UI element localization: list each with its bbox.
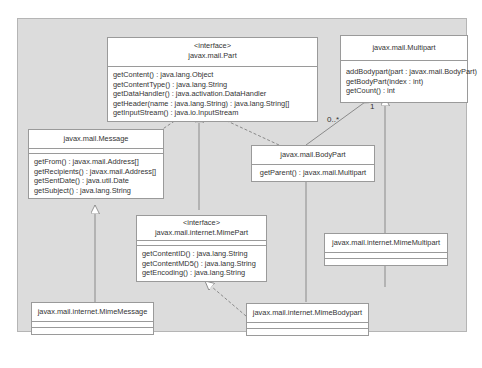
class-header: <interface> javax.mail.Part: [108, 38, 317, 67]
operation: getContentType() : java.lang.String: [113, 80, 312, 90]
operation: getSentDate() : java.util.Date: [34, 176, 158, 186]
class-name: javax.mail.internet.MimeBodypart: [253, 308, 362, 317]
operation: getBodyPart(index : int): [346, 77, 462, 87]
mimebodypart-realizes-mimepart: [205, 281, 246, 316]
operation: getRecipients() : javax.mail.Address[]: [34, 167, 158, 177]
class-mimebodypart[interactable]: javax.mail.internet.MimeBodypart: [246, 303, 369, 336]
stereotype-label: <interface>: [139, 218, 264, 228]
class-header: javax.mail.internet.MimeMultipart: [325, 234, 447, 253]
operation: getSubject() : java.lang.String: [34, 186, 158, 196]
class-header: javax.mail.Message: [29, 130, 163, 149]
class-name: javax.mail.internet.MimeMultipart: [332, 238, 440, 247]
class-header: javax.mail.internet.MimeBodypart: [247, 304, 368, 323]
operations-list: getParent() : javax.mail.Multipart: [252, 165, 374, 181]
class-bodypart[interactable]: javax.mail.BodyPart getParent() : javax.…: [251, 145, 375, 182]
operation: getContentMD5() : java.lang.String: [142, 259, 261, 269]
class-multipart[interactable]: javax.mail.Multipart addBodypart(part : …: [340, 35, 468, 103]
class-header: javax.mail.BodyPart: [252, 146, 374, 165]
operation: getDataHandler() : java.activation.DataH…: [113, 89, 312, 99]
operation: getParent() : javax.mail.Multipart: [256, 168, 370, 178]
class-name: javax.mail.Multipart: [372, 43, 435, 52]
operations-section: [247, 329, 368, 335]
operation: getInputStream() : java.io.InputStream: [113, 108, 312, 118]
operations-list: getContent() : java.lang.Object getConte…: [108, 67, 317, 121]
operation: getCount() : int: [346, 86, 462, 96]
class-header: javax.mail.internet.MimeMessage: [32, 303, 153, 322]
multiplicity-multipart: 1: [370, 102, 374, 111]
class-header: javax.mail.Multipart: [341, 36, 467, 61]
class-message[interactable]: javax.mail.Message getFrom() : javax.mai…: [28, 129, 164, 199]
class-name: javax.mail.Message: [64, 134, 129, 143]
operation: getFrom() : javax.mail.Address[]: [34, 157, 158, 167]
operation: getContentID() : java.lang.String: [142, 249, 261, 259]
multiplicity-bodypart: 0..*: [327, 115, 339, 124]
class-header: <interface> javax.mail.internet.MimePart: [137, 216, 266, 241]
operations-section: [32, 328, 153, 334]
class-mimemultipart[interactable]: javax.mail.internet.MimeMultipart: [324, 233, 448, 266]
operations-section: [325, 259, 447, 265]
operation: getEncoding() : java.lang.String: [142, 268, 261, 278]
class-mimemessage[interactable]: javax.mail.internet.MimeMessage: [31, 302, 154, 335]
class-mimepart[interactable]: <interface> javax.mail.internet.MimePart…: [136, 215, 267, 282]
stereotype-label: <interface>: [110, 41, 315, 51]
operations-list: getFrom() : javax.mail.Address[] getReci…: [29, 154, 163, 198]
class-name: javax.mail.BodyPart: [280, 150, 345, 159]
class-name: javax.mail.internet.MimeMessage: [38, 307, 148, 316]
operations-list: getContentID() : java.lang.String getCon…: [137, 246, 266, 281]
class-name: javax.mail.Part: [188, 51, 236, 60]
operation: getContent() : java.lang.Object: [113, 70, 312, 80]
class-name: javax.mail.internet.MimePart: [155, 228, 248, 237]
class-part[interactable]: <interface> javax.mail.Part getContent()…: [107, 37, 318, 122]
operation: addBodypart(part : javax.mail.BodyPart): [346, 67, 462, 77]
operations-list: addBodypart(part : javax.mail.BodyPart) …: [341, 61, 467, 102]
operation: getHeader(name : java.lang.String) : jav…: [113, 99, 312, 109]
